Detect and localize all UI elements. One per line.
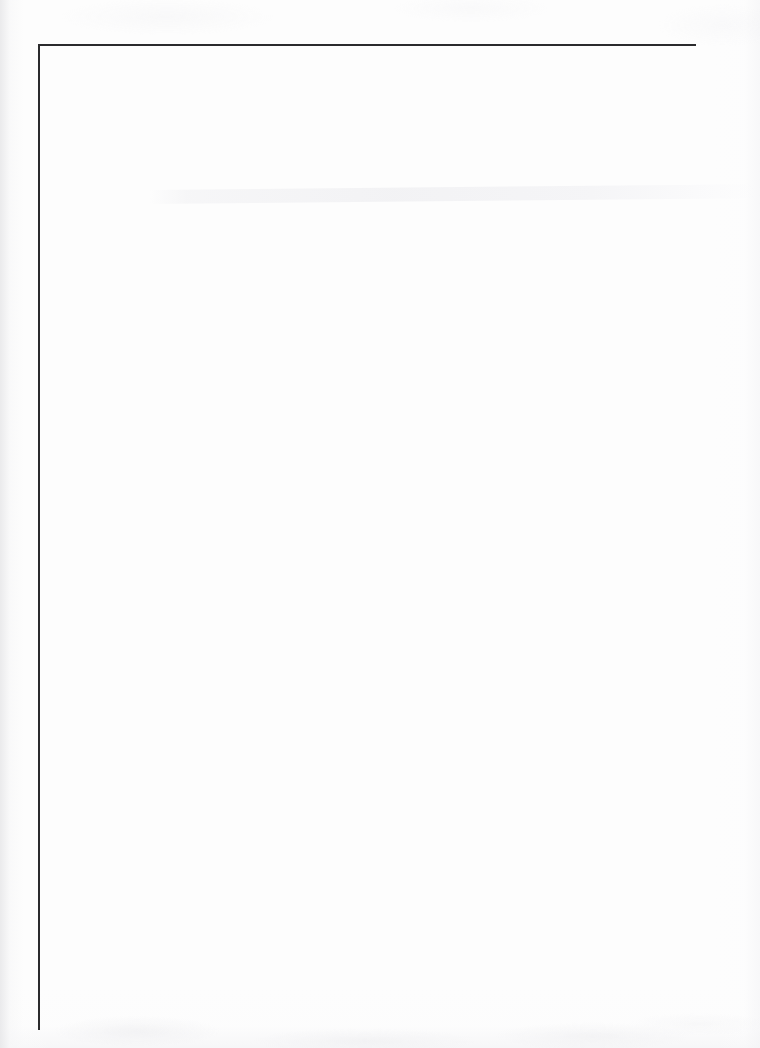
page-body	[40, 46, 696, 972]
scanned-page: 298 The Instant Curriculum	[0, 0, 760, 1048]
page-footer: 298 The Instant Curriculum	[0, 972, 760, 1034]
